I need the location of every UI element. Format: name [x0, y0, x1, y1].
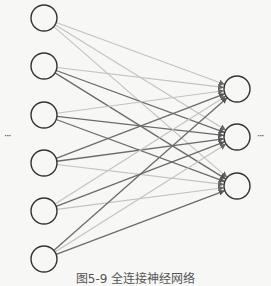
input-neuron [31, 246, 57, 272]
connection-edge [57, 91, 224, 113]
connection-edge [55, 144, 226, 252]
output-layer [224, 76, 250, 199]
input-layer [31, 5, 57, 272]
input-neuron [31, 102, 57, 128]
output-neuron [224, 173, 250, 199]
connection-edges [54, 22, 227, 254]
output-layer-ellipsis: ··· [257, 131, 264, 141]
input-neuron [31, 198, 57, 224]
output-neuron [224, 76, 250, 102]
connection-edge [57, 68, 224, 88]
connection-edge [56, 191, 224, 255]
connection-edge [56, 94, 224, 159]
figure-caption: 图5-9 全连接神经网络 [0, 272, 271, 286]
connection-edge [55, 96, 226, 204]
output-neuron [224, 124, 250, 150]
input-neuron [31, 53, 57, 79]
input-layer-ellipsis: ··· [4, 131, 11, 141]
input-neuron [31, 150, 57, 176]
connection-edge [56, 22, 224, 84]
connection-edge [54, 98, 227, 250]
input-neuron [31, 5, 57, 31]
